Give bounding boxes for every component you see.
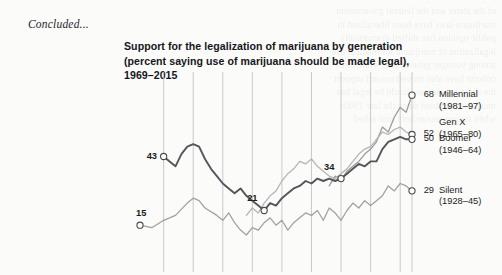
series-name: Millennial: [439, 89, 478, 99]
data-point-marker-34: [338, 175, 344, 181]
series-birth-years: (1928–45): [439, 196, 481, 206]
endpoint-marker-millennial: [409, 92, 415, 98]
data-point-marker-21: [261, 207, 267, 213]
endpoint-marker-silent: [409, 188, 415, 194]
endpoint-value-silent: 29: [418, 185, 434, 195]
chart-gridlines: [164, 72, 412, 272]
series-birth-years: (1946–64): [439, 145, 481, 155]
series-label-boomer: Boomer(1946–64): [439, 133, 481, 156]
series-birth-years: (1981–97): [439, 101, 481, 111]
series-label-silent: Silent(1928–45): [439, 185, 481, 208]
data-point-label-21: 21: [247, 193, 257, 203]
data-point-label-43: 43: [147, 151, 157, 161]
chart-series-lines: [140, 95, 412, 235]
series-label-millennial: Millennial(1981–97): [439, 89, 481, 112]
data-point-label-34: 34: [324, 162, 334, 172]
endpoint-marker-boomer: [409, 136, 415, 142]
data-point-marker-43: [161, 153, 167, 159]
endpoint-value-millennial: 68: [418, 89, 434, 99]
series-name: Gen X: [439, 117, 465, 127]
series-name: Boomer: [439, 133, 472, 143]
endpoint-value-boomer: 50: [418, 133, 434, 143]
data-point-marker-15: [137, 222, 143, 228]
series-name: Silent: [439, 185, 462, 195]
data-point-label-15: 15: [136, 208, 146, 218]
